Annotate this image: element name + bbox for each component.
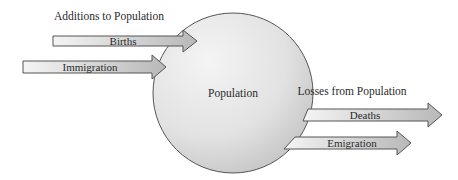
immigration-label: Immigration xyxy=(63,61,118,73)
deaths-label: Deaths xyxy=(350,109,381,121)
losses-heading: Losses from Population xyxy=(297,85,406,98)
population-flow-diagram: Additions to Population Losses from Popu… xyxy=(0,0,458,180)
births-label: Births xyxy=(110,35,137,47)
population-label: Population xyxy=(208,87,258,100)
additions-heading: Additions to Population xyxy=(54,10,164,23)
emigration-label: Emigration xyxy=(327,137,377,149)
